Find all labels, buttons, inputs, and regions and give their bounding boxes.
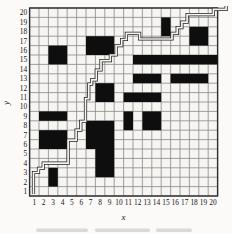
x-tick-label: 7 bbox=[89, 198, 93, 207]
x-tick-label: 2 bbox=[42, 198, 46, 207]
filled-block bbox=[86, 121, 114, 149]
x-tick-label: 17 bbox=[181, 198, 189, 207]
x-tick-label: 4 bbox=[61, 198, 65, 207]
y-tick-label: 18 bbox=[20, 27, 28, 36]
filled-block bbox=[39, 130, 67, 149]
filled-block bbox=[86, 36, 114, 55]
filled-block bbox=[133, 55, 218, 64]
y-tick-label: 14 bbox=[20, 65, 28, 74]
filled-block bbox=[142, 111, 161, 130]
y-tick-label: 15 bbox=[20, 55, 28, 64]
filled-block bbox=[124, 111, 133, 130]
x-tick-label: 19 bbox=[200, 198, 208, 207]
y-tick-label: 1 bbox=[23, 187, 27, 196]
filled-block bbox=[39, 111, 67, 120]
x-tick-label: 11 bbox=[125, 198, 132, 207]
cropped-caption-smudge bbox=[36, 229, 192, 232]
y-tick-label: 11 bbox=[20, 93, 27, 102]
grid-chart-svg: 1234567891011121314151617181920123456789… bbox=[0, 0, 232, 234]
y-tick-label: 4 bbox=[23, 159, 27, 168]
x-tick-label: 1 bbox=[32, 198, 36, 207]
filled-block bbox=[48, 46, 67, 65]
filled-block bbox=[171, 74, 209, 83]
y-tick-label: 2 bbox=[23, 178, 27, 187]
x-tick-label: 14 bbox=[153, 198, 161, 207]
y-tick-label: 16 bbox=[20, 46, 28, 55]
x-tick-label: 12 bbox=[134, 198, 142, 207]
filled-block bbox=[95, 149, 114, 177]
y-tick-label: 19 bbox=[20, 18, 28, 27]
x-tick-label: 5 bbox=[70, 198, 74, 207]
x-tick-label: 10 bbox=[115, 198, 123, 207]
y-tick-label: 12 bbox=[20, 84, 28, 93]
lattice-grid-figure: 1234567891011121314151617181920123456789… bbox=[0, 0, 232, 234]
y-tick-label: 8 bbox=[23, 121, 27, 130]
y-tick-label: 20 bbox=[20, 8, 28, 17]
x-tick-label: 15 bbox=[162, 198, 170, 207]
y-tick-label: 6 bbox=[23, 140, 27, 149]
y-axis-label: y bbox=[1, 101, 11, 106]
x-tick-label: 6 bbox=[79, 198, 83, 207]
filled-block bbox=[48, 168, 57, 187]
y-tick-label: 7 bbox=[23, 131, 27, 140]
x-tick-label: 8 bbox=[98, 198, 102, 207]
filled-block bbox=[133, 74, 161, 83]
filled-block bbox=[161, 17, 170, 36]
y-tick-label: 10 bbox=[20, 102, 28, 111]
x-tick-label: 16 bbox=[172, 198, 180, 207]
y-tick-label: 5 bbox=[23, 149, 27, 158]
y-tick-label: 9 bbox=[23, 112, 27, 121]
x-tick-label: 3 bbox=[51, 198, 55, 207]
x-axis-label: x bbox=[121, 212, 126, 222]
y-tick-label: 17 bbox=[20, 37, 28, 46]
filled-block bbox=[189, 27, 208, 46]
filled-block bbox=[95, 83, 114, 102]
x-tick-label: 18 bbox=[190, 198, 198, 207]
x-tick-label: 13 bbox=[143, 198, 151, 207]
y-tick-label: 13 bbox=[20, 74, 28, 83]
y-tick-label: 3 bbox=[23, 168, 27, 177]
filled-block bbox=[124, 93, 162, 102]
x-tick-label: 20 bbox=[209, 198, 217, 207]
x-tick-label: 9 bbox=[108, 198, 112, 207]
